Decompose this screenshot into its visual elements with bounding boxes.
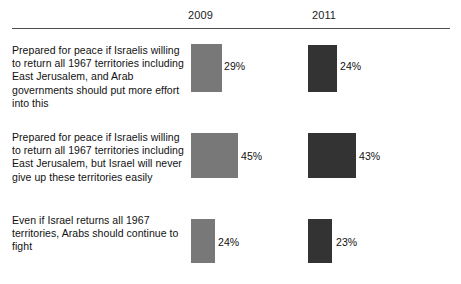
bar-value-row2-2011: 23% bbox=[336, 236, 357, 248]
bar-value-row2-2009: 24% bbox=[218, 236, 239, 248]
row-label-1: Prepared for peace if Israelis willing t… bbox=[12, 131, 188, 184]
row-label-0: Prepared for peace if Israelis willing t… bbox=[12, 44, 188, 110]
bar-value-row1-2009: 45% bbox=[241, 150, 262, 162]
bar-value-row1-2011: 43% bbox=[359, 150, 380, 162]
column-header-2009: 2009 bbox=[188, 9, 213, 21]
column-header-2011: 2011 bbox=[312, 9, 336, 21]
row-label-2: Even if Israel returns all 1967 territor… bbox=[12, 214, 188, 254]
bar-row1-2011 bbox=[308, 133, 356, 178]
bar-row2-2011 bbox=[308, 219, 332, 263]
bar-row1-2009 bbox=[191, 133, 238, 178]
bar-row2-2009 bbox=[191, 219, 215, 263]
bar-value-row0-2011: 24% bbox=[340, 60, 361, 72]
bar-row0-2011 bbox=[308, 45, 337, 92]
header-divider bbox=[12, 28, 450, 29]
bar-value-row0-2009: 29% bbox=[224, 60, 245, 72]
chart-container: 2009 2011 Prepared for peace if Israelis… bbox=[0, 0, 461, 284]
bar-row0-2009 bbox=[191, 44, 222, 92]
